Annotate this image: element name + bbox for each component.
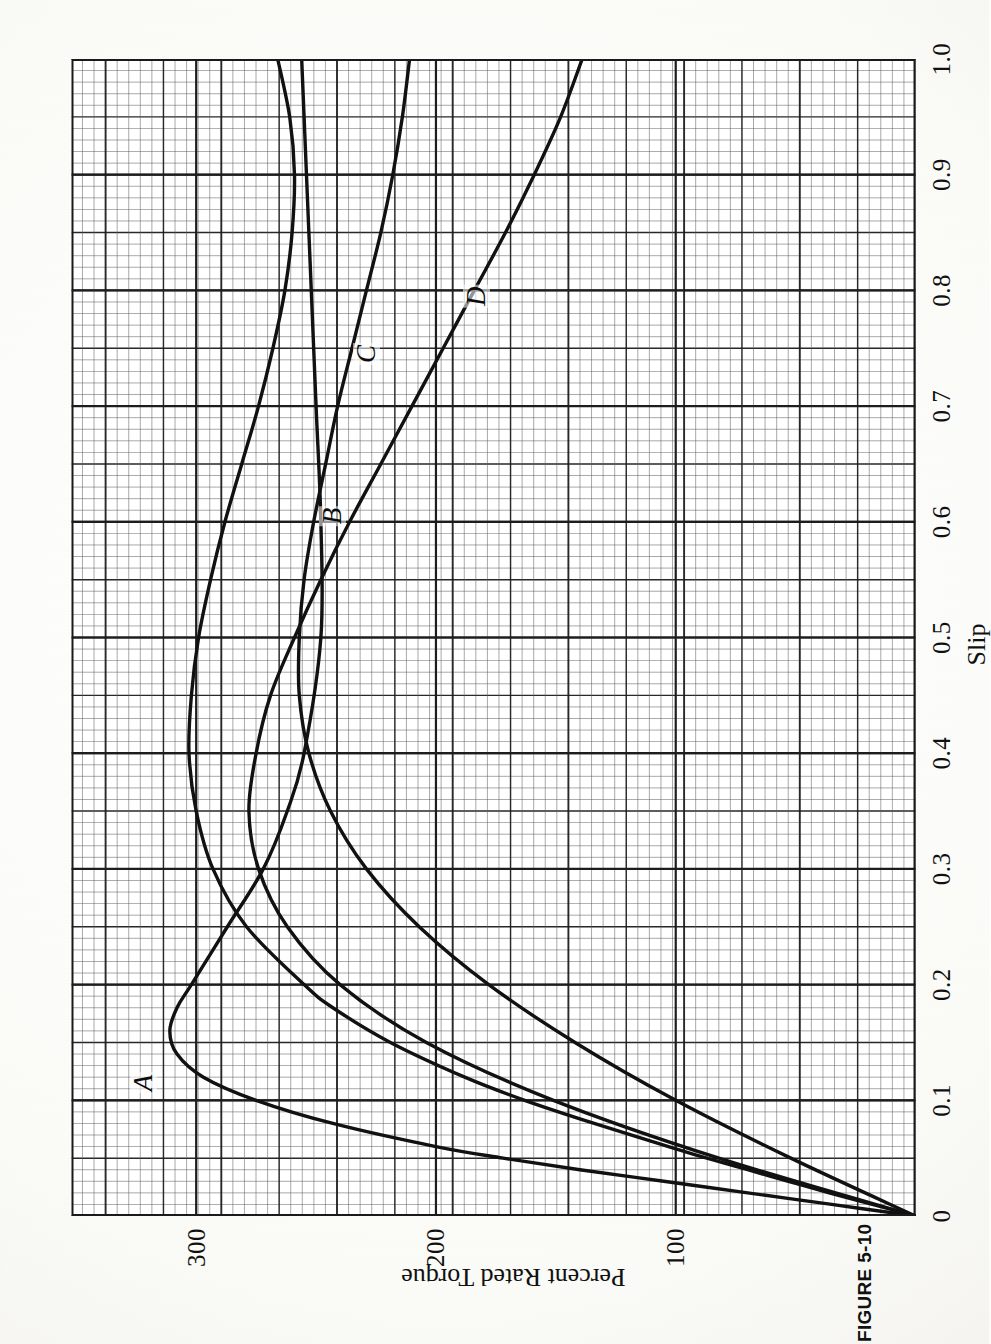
x-tick-label: 0.2 — [927, 968, 955, 1001]
torque-slip-curves — [71, 59, 915, 1216]
x-tick-label: 0.4 — [927, 737, 955, 770]
y-axis-title: Percent Rated Torque — [401, 1262, 625, 1292]
x-tick-label: 0.7 — [927, 390, 955, 423]
x-tick-label: 0.1 — [927, 1084, 955, 1117]
x-tick-label: 0.9 — [927, 158, 955, 191]
x-tick-label: 0.6 — [927, 505, 955, 538]
curve-label-D: D — [463, 284, 490, 308]
figure-caption: FIGURE 5-10 — [854, 1224, 876, 1342]
x-axis-title: Slip — [961, 624, 991, 666]
x-tick-label: 0 — [927, 1210, 955, 1223]
curve-label-B: B — [319, 506, 346, 527]
y-tick-label: 100 — [661, 1228, 689, 1278]
x-tick-label: 0.5 — [927, 621, 955, 654]
curve-label-A: A — [129, 1073, 156, 1094]
x-tick-label: 1.0 — [927, 43, 955, 76]
x-tick-label: 0.8 — [927, 274, 955, 307]
curve-label-C: C — [352, 343, 379, 365]
y-tick-label: 300 — [182, 1228, 210, 1278]
curve-A — [169, 59, 915, 1216]
curve-D — [248, 59, 915, 1216]
x-tick-label: 0.3 — [927, 853, 955, 886]
curve-B — [188, 59, 915, 1216]
plot-area — [71, 59, 915, 1216]
